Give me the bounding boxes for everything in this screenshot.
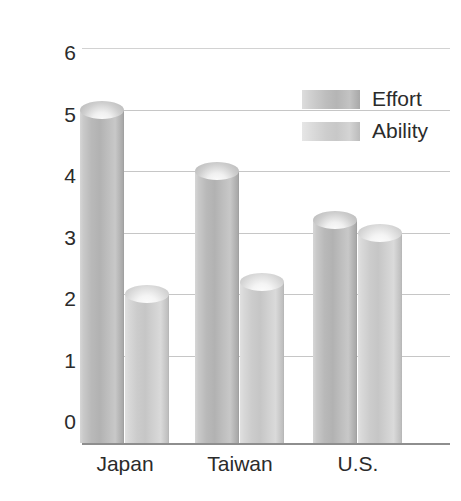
gridline-4 xyxy=(82,171,450,172)
legend-label-effort: Effort xyxy=(372,87,422,111)
x-axis-tick-labels: JapanTaiwanU.S. xyxy=(82,452,450,482)
bar-japan-effort xyxy=(80,101,124,444)
bar-cap xyxy=(80,101,124,119)
bar-body xyxy=(195,171,239,443)
bar-taiwan-ability xyxy=(240,273,284,443)
x-tick-label-japan: Japan xyxy=(65,452,185,476)
legend-swatch-effort xyxy=(302,90,360,109)
y-tick-label-6: 6 xyxy=(50,42,76,63)
bar-us-ability xyxy=(358,224,402,444)
x-tick-label-us: U.S. xyxy=(298,452,418,476)
y-tick-label-1: 1 xyxy=(50,350,76,371)
plot-area xyxy=(82,20,450,445)
bar-body xyxy=(240,282,284,443)
chart-legend: Effort Ability xyxy=(302,86,452,150)
x-axis-line xyxy=(82,443,450,445)
y-tick-label-4: 4 xyxy=(50,165,76,186)
y-tick-label-2: 2 xyxy=(50,288,76,309)
bar-body xyxy=(125,294,169,443)
y-axis-tick-labels: 6543210 xyxy=(46,20,76,445)
y-tick-label-0: 0 xyxy=(50,411,76,432)
bar-cap xyxy=(125,285,169,303)
bar-chart-figure: Mean rating 6543210 JapanTaiwanU.S. Effo… xyxy=(0,0,461,501)
bar-cap xyxy=(358,224,402,242)
bar-body xyxy=(358,233,402,444)
bar-body xyxy=(313,220,357,443)
y-tick-label-3: 3 xyxy=(50,227,76,248)
bar-japan-ability xyxy=(125,285,169,443)
legend-item-ability: Ability xyxy=(302,118,452,144)
bar-cap xyxy=(195,162,239,180)
y-tick-label-5: 5 xyxy=(50,104,76,125)
x-tick-label-taiwan: Taiwan xyxy=(180,452,300,476)
bar-body xyxy=(80,110,124,444)
legend-swatch-ability xyxy=(302,122,360,141)
bar-cap xyxy=(240,273,284,291)
bar-us-effort xyxy=(313,211,357,443)
legend-item-effort: Effort xyxy=(302,86,452,112)
gridline-6 xyxy=(82,48,450,49)
bar-taiwan-effort xyxy=(195,162,239,443)
legend-label-ability: Ability xyxy=(372,119,428,143)
